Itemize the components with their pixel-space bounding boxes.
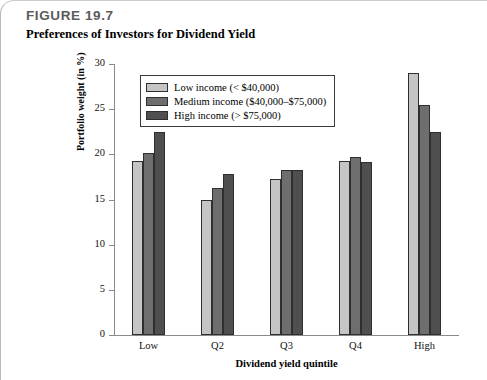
bar-group bbox=[408, 64, 441, 335]
figure-number: FIGURE 19.7 bbox=[26, 8, 466, 24]
y-axis-tick: 20 bbox=[109, 154, 114, 155]
bar[interactable] bbox=[339, 161, 350, 335]
x-axis-line bbox=[114, 335, 459, 336]
x-axis-tick-label: Q2 bbox=[183, 340, 253, 351]
y-axis-tick: 25 bbox=[109, 109, 114, 110]
bar[interactable] bbox=[408, 73, 419, 335]
legend-item[interactable]: High income (> $75,000) bbox=[146, 108, 326, 122]
figure-header: FIGURE 19.7 Preferences of Investors for… bbox=[26, 8, 466, 42]
legend-label: Medium income ($40,000–$75,000) bbox=[174, 96, 326, 107]
x-axis-tick-label: Q4 bbox=[321, 340, 391, 351]
figure-card: FIGURE 19.7 Preferences of Investors for… bbox=[0, 0, 487, 380]
chart-legend: Low income (< $40,000)Medium income ($40… bbox=[140, 75, 335, 127]
y-axis-tick-label: 5 bbox=[100, 283, 105, 294]
legend-item[interactable]: Low income (< $40,000) bbox=[146, 80, 326, 94]
y-axis-tick: 0 bbox=[109, 335, 114, 336]
x-axis-tick-label: Q3 bbox=[252, 340, 322, 351]
bar[interactable] bbox=[201, 200, 212, 335]
y-axis-tick: 15 bbox=[109, 200, 114, 201]
y-axis-title: Portfolio weight (in %) bbox=[75, 52, 86, 151]
bar[interactable] bbox=[430, 132, 441, 335]
legend-label: High income (> $75,000) bbox=[174, 110, 281, 121]
y-axis-tick-label: 25 bbox=[95, 102, 106, 113]
legend-swatch bbox=[146, 83, 168, 92]
bar[interactable] bbox=[223, 174, 234, 335]
figure-title: Preferences of Investors for Dividend Yi… bbox=[26, 26, 466, 42]
y-axis-tick: 5 bbox=[109, 290, 114, 291]
legend-swatch bbox=[146, 97, 168, 106]
bar[interactable] bbox=[350, 157, 361, 335]
legend-label: Low income (< $40,000) bbox=[174, 82, 279, 93]
y-axis-tick-label: 30 bbox=[95, 57, 106, 68]
bar[interactable] bbox=[212, 188, 223, 335]
bar[interactable] bbox=[154, 132, 165, 335]
bar[interactable] bbox=[281, 170, 292, 335]
x-axis-tick-label: High bbox=[390, 340, 460, 351]
legend-item[interactable]: Medium income ($40,000–$75,000) bbox=[146, 94, 326, 108]
bar[interactable] bbox=[270, 179, 281, 335]
bar[interactable] bbox=[361, 162, 372, 335]
y-axis-tick-label: 0 bbox=[100, 328, 105, 339]
y-axis-tick: 30 bbox=[109, 64, 114, 65]
bar-group bbox=[339, 64, 372, 335]
y-axis-tick-label: 10 bbox=[95, 238, 106, 249]
y-axis-tick-label: 20 bbox=[95, 147, 106, 158]
bar[interactable] bbox=[292, 170, 303, 335]
y-axis-tick: 10 bbox=[109, 245, 114, 246]
x-axis-title: Dividend yield quintile bbox=[114, 358, 459, 369]
x-axis-tick-label: Low bbox=[114, 340, 184, 351]
legend-swatch bbox=[146, 111, 168, 120]
bar[interactable] bbox=[143, 153, 154, 335]
y-axis-line bbox=[114, 64, 115, 336]
bar[interactable] bbox=[132, 161, 143, 335]
bar[interactable] bbox=[419, 105, 430, 335]
y-axis-tick-label: 15 bbox=[95, 193, 106, 204]
